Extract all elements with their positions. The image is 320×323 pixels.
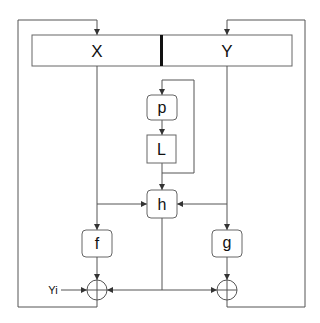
left-xor-icon xyxy=(87,280,107,300)
f-label: f xyxy=(95,235,100,252)
yi-input-label: Yi xyxy=(48,284,57,296)
g-label: g xyxy=(223,234,232,251)
l-label: L xyxy=(157,141,166,158)
p-label: p xyxy=(158,99,167,116)
register-y-label: Y xyxy=(221,42,232,61)
right-xor-icon xyxy=(217,280,237,300)
feistel-diagram: X Y p L h f g Yi xyxy=(0,0,320,323)
register-x-label: X xyxy=(91,42,102,61)
h-label: h xyxy=(158,196,167,213)
